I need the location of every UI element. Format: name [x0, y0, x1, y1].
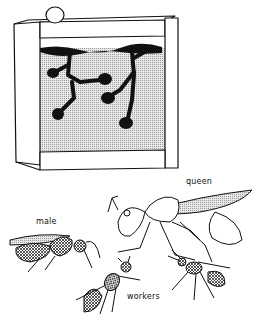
queen-ant — [108, 190, 252, 262]
worker-ant-2 — [168, 250, 230, 300]
label-male: male — [36, 217, 57, 226]
worker-ant-1 — [76, 256, 140, 314]
label-queen: queen — [186, 177, 212, 186]
male-ant — [10, 235, 100, 272]
ant-farm — [14, 7, 178, 170]
ant-illustration — [0, 0, 260, 322]
label-workers: workers — [127, 292, 160, 301]
